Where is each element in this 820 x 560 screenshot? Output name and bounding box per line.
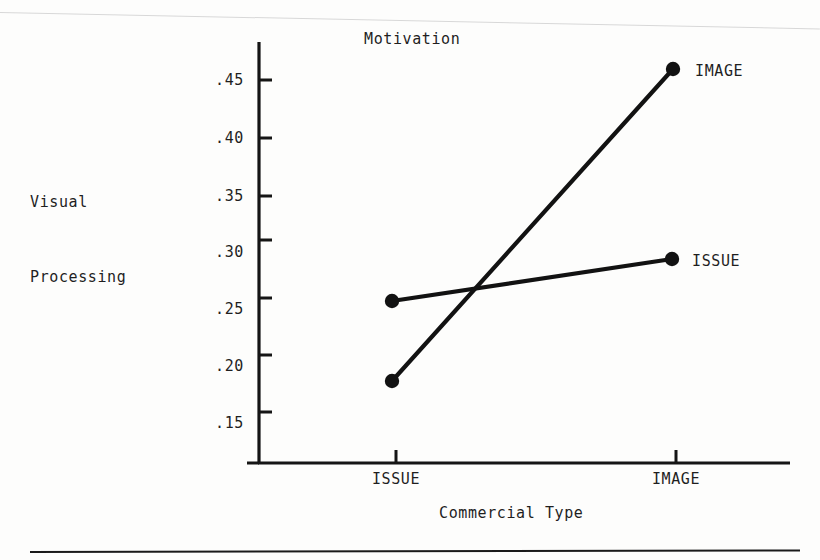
y-tick-label-45: .45 (196, 71, 244, 89)
plot-title: Motivation (364, 30, 460, 48)
y-tick-label-40: .40 (196, 129, 244, 147)
x-tick-label-image: IMAGE (631, 470, 721, 488)
series-label-issue: ISSUE (692, 252, 740, 270)
y-tick-label-25: .25 (196, 300, 244, 318)
data-point-issue-at-issue (385, 294, 399, 308)
data-point-image-at-image (666, 62, 680, 76)
y-axis-title: Visual Processing (30, 140, 126, 340)
y-axis-title-line2: Processing (30, 265, 126, 290)
x-axis-title: Commercial Type (439, 504, 583, 522)
y-tick-label-35: .35 (196, 187, 244, 205)
y-axis-title-line1: Visual (30, 190, 126, 215)
y-tick-label-30: .30 (196, 243, 244, 261)
y-tick-label-20: .20 (196, 357, 244, 375)
series-line-issue (385, 252, 679, 308)
data-point-issue-at-image (665, 252, 679, 266)
y-tick-label-15: .15 (196, 414, 244, 432)
series-label-image: IMAGE (695, 62, 743, 80)
figure-page: Motivation Visual Processing .45 .40 .35… (0, 0, 820, 560)
x-tick-label-issue: ISSUE (351, 470, 441, 488)
series-line-image (385, 62, 680, 388)
data-point-image-at-issue (385, 374, 399, 388)
